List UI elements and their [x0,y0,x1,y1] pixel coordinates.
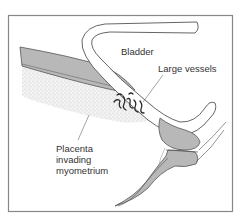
label-placenta-line-2: invading [56,154,108,165]
label-placenta: Placenta invading myometrium [56,143,108,176]
label-placenta-line-3: myometrium [56,165,108,176]
anatomy-diagram [0,0,243,222]
label-placenta-line-1: Placenta [56,143,108,154]
label-large-vessels: Large vessels [158,63,217,74]
label-bladder: Bladder [121,46,154,57]
